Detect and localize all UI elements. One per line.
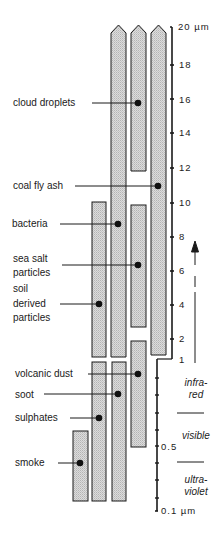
label-cloud-droplets: cloud droplets	[13, 97, 75, 108]
label-coal-fly-ash: coal fly ash	[13, 180, 63, 191]
tick-12: 12	[179, 163, 192, 173]
label-bacteria: bacteria	[12, 218, 48, 229]
label-sea-salt-line1: sea salt	[13, 253, 47, 264]
bar-cloud-droplets	[131, 25, 146, 171]
band-infrared: infra- red	[176, 377, 216, 401]
dot-sulphates	[96, 415, 103, 422]
band-infrared-line1: infra-	[176, 377, 216, 389]
tick-1: 1	[179, 355, 185, 365]
band-visible-line1: visible	[176, 430, 216, 442]
dot-bacteria	[115, 221, 122, 228]
dot-coal-fly-ash	[155, 183, 162, 190]
band-visible: visible	[176, 430, 216, 442]
tick-10: 10	[179, 198, 192, 208]
bar-volcanic-dust	[131, 341, 146, 447]
band-ultraviolet-line1: ultra-	[176, 474, 216, 486]
label-soil-line1: soil	[13, 283, 28, 294]
label-volcanic-dust: volcanic dust	[15, 368, 73, 379]
label-soil-line2: derived	[13, 298, 46, 309]
label-sea-salt-line2: particles	[13, 267, 50, 278]
dot-smoke	[77, 460, 84, 467]
tick-0-5: 0.5	[161, 442, 177, 452]
band-ultraviolet-line2: violet	[176, 486, 216, 498]
tick-4: 4	[179, 300, 185, 310]
tick-2: 2	[179, 334, 185, 344]
tick-14: 14	[179, 128, 192, 138]
tick-6: 6	[179, 266, 185, 276]
tick-16: 16	[179, 95, 192, 105]
tick-18: 18	[179, 60, 192, 70]
axis-lower	[155, 359, 159, 511]
label-sulphates: sulphates	[15, 412, 58, 423]
wavelength-arrow	[192, 241, 199, 363]
label-smoke: smoke	[15, 457, 44, 468]
label-soot: soot	[15, 389, 34, 400]
bar-bacteria	[111, 25, 126, 357]
tick-8: 8	[179, 232, 185, 242]
label-soil-line3: particles	[13, 312, 50, 323]
bar-sulphates	[92, 362, 106, 501]
bar-soil-derived	[92, 202, 106, 357]
bar-soot	[112, 362, 126, 501]
bar-coal-fly-ash	[151, 25, 166, 355]
tick-0-1: 0.1 µm	[161, 506, 196, 516]
dot-soil	[96, 301, 103, 308]
dot-soot	[115, 391, 122, 398]
band-ultraviolet: ultra- violet	[176, 474, 216, 498]
dot-volcanic-dust	[135, 371, 142, 378]
dot-sea-salt	[135, 262, 142, 269]
tick-20: 20 µm	[178, 22, 210, 32]
dot-cloud-droplets	[135, 100, 142, 107]
band-infrared-line2: red	[176, 389, 216, 401]
